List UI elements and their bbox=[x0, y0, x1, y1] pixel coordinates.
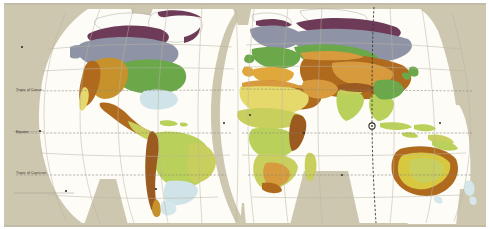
page-edge-top bbox=[0, 0, 490, 3]
equator-label: Equator bbox=[16, 131, 29, 134]
page-edge-bottom bbox=[0, 227, 490, 230]
page-edge-left bbox=[0, 0, 4, 230]
location-marker[interactable] bbox=[369, 123, 375, 129]
map-canvas[interactable] bbox=[4, 3, 486, 227]
map-figure: Tropic of Cancer Equator Tropic of Capri… bbox=[0, 0, 490, 230]
tropic-of-capricorn-label: Tropic of Capricorn bbox=[16, 172, 47, 175]
tropic-of-cancer-label: Tropic of Cancer bbox=[16, 89, 43, 92]
world-map[interactable]: Tropic of Cancer Equator Tropic of Capri… bbox=[4, 3, 486, 227]
page-edge-right bbox=[486, 0, 490, 230]
